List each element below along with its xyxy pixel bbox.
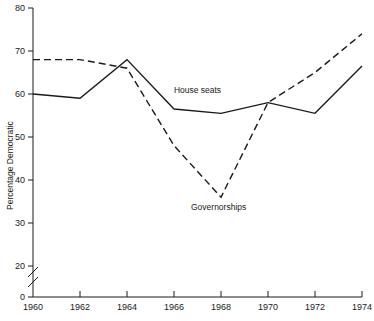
y-tick-label: 20 bbox=[15, 261, 25, 271]
x-tick-group: 19601962196419661968197019721974 bbox=[23, 291, 372, 312]
series-label-governorships: Governorships bbox=[191, 202, 246, 212]
y-tick-group: 020304050607080 bbox=[15, 3, 33, 302]
x-tick-label: 1964 bbox=[117, 302, 137, 312]
x-tick-label: 1970 bbox=[258, 302, 278, 312]
x-tick-label: 1974 bbox=[352, 302, 372, 312]
x-tick-label: 1966 bbox=[164, 302, 184, 312]
x-tick-label: 1960 bbox=[23, 302, 43, 312]
y-tick-label: 30 bbox=[15, 218, 25, 228]
chart-container: 020304050607080 196019621964196619681970… bbox=[0, 0, 374, 321]
y-tick-label: 60 bbox=[15, 89, 25, 99]
line-chart: 020304050607080 196019621964196619681970… bbox=[0, 0, 374, 321]
y-tick-label: 0 bbox=[20, 292, 25, 302]
y-tick-label: 70 bbox=[15, 46, 25, 56]
x-tick-label: 1972 bbox=[305, 302, 325, 312]
x-tick-label: 1962 bbox=[70, 302, 90, 312]
y-tick-label: 40 bbox=[15, 175, 25, 185]
y-tick-label: 50 bbox=[15, 132, 25, 142]
series-label-house-seats: House seats bbox=[174, 85, 221, 95]
y-tick-label: 80 bbox=[15, 3, 25, 13]
x-tick-label: 1968 bbox=[211, 302, 231, 312]
axes-group bbox=[28, 8, 362, 297]
series-governorships-line bbox=[33, 34, 362, 197]
y-axis-title: Percentage Democratic bbox=[5, 120, 15, 210]
